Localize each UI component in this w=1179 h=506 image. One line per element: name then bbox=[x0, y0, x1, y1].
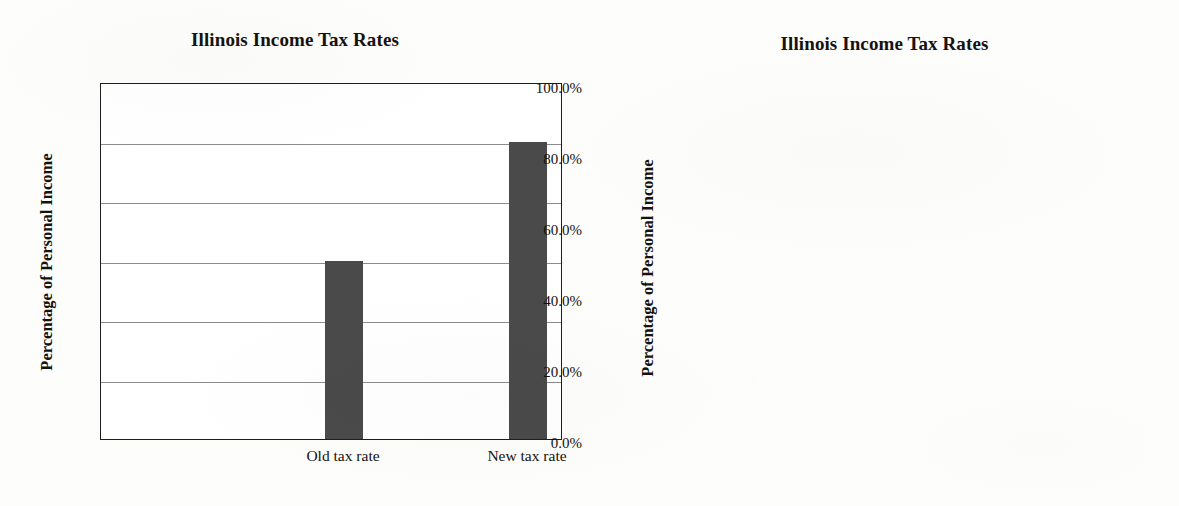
y-axis-title-left: Percentage of Personal Income bbox=[37, 112, 57, 412]
bar-old-tax-rate bbox=[325, 261, 363, 440]
y-tick-label: 40.0% bbox=[482, 293, 582, 310]
chart-title-left: Illinois Income Tax Rates bbox=[0, 29, 590, 51]
y-tick-label: 20.0% bbox=[482, 364, 582, 381]
y-tick-label: 0.0% bbox=[482, 435, 582, 452]
plot-area-left bbox=[100, 83, 562, 440]
y-tick-label: 100.0% bbox=[482, 80, 582, 97]
x-category-label: Old tax rate bbox=[306, 447, 379, 465]
gridline bbox=[101, 144, 561, 145]
gridline bbox=[101, 203, 561, 204]
chart-figure-right: Illinois Income Tax Rates Percentage of … bbox=[590, 0, 1179, 506]
y-tick-label: 60.0% bbox=[482, 222, 582, 239]
chart-title-right: Illinois Income Tax Rates bbox=[590, 33, 1179, 55]
chart-figure-left: Illinois Income Tax Rates Percentage of … bbox=[0, 0, 590, 506]
y-axis-title-right: Percentage of Personal Income bbox=[638, 118, 658, 418]
y-tick-label: 80.0% bbox=[482, 151, 582, 168]
bar-new-tax-rate bbox=[509, 142, 547, 440]
